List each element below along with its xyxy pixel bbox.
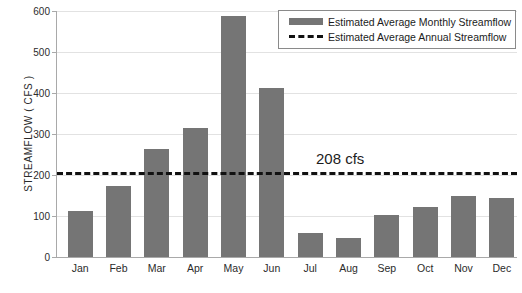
y-tick-label: 400 bbox=[4, 88, 50, 99]
annual-average-value-label: 208 cfs bbox=[316, 150, 364, 167]
bar-aug bbox=[336, 238, 361, 257]
y-tick-label: 200 bbox=[4, 170, 50, 181]
y-tick-label: 500 bbox=[4, 47, 50, 58]
x-tick-label-jun: Jun bbox=[263, 262, 280, 274]
y-tick-label: 300 bbox=[4, 129, 50, 140]
legend-item-annual-label: Estimated Average Annual Streamflow bbox=[328, 31, 506, 43]
bar-group bbox=[183, 11, 208, 257]
x-axis-line bbox=[56, 257, 517, 258]
y-tick-label: 600 bbox=[4, 6, 50, 17]
legend-bar-swatch-icon bbox=[284, 18, 328, 25]
x-tick-label-jul: Jul bbox=[303, 262, 316, 274]
bar-jan bbox=[68, 211, 93, 257]
x-tick-label-feb: Feb bbox=[109, 262, 127, 274]
bar-oct bbox=[413, 207, 438, 257]
x-tick-label-aug: Aug bbox=[339, 262, 358, 274]
x-tick-label-nov: Nov bbox=[454, 262, 473, 274]
bar-group bbox=[106, 11, 131, 257]
x-tick-label-apr: Apr bbox=[187, 262, 203, 274]
bar-group bbox=[68, 11, 93, 257]
bar-jul bbox=[298, 233, 323, 257]
legend-item-annual: Estimated Average Annual Streamflow bbox=[284, 29, 510, 44]
legend-item-monthly: Estimated Average Monthly Streamflow bbox=[284, 14, 510, 29]
bar-group bbox=[144, 11, 169, 257]
bar-sep bbox=[374, 215, 399, 257]
y-tick-label: 100 bbox=[4, 211, 50, 222]
x-tick-label-jan: Jan bbox=[72, 262, 89, 274]
bar-dec bbox=[489, 198, 514, 257]
legend-item-monthly-label: Estimated Average Monthly Streamflow bbox=[328, 16, 511, 28]
x-tick-label-mar: Mar bbox=[148, 262, 166, 274]
bar-nov bbox=[451, 196, 476, 257]
bar-apr bbox=[183, 128, 208, 257]
bar-mar bbox=[144, 149, 169, 257]
x-tick-label-sep: Sep bbox=[377, 262, 396, 274]
bar-group bbox=[221, 11, 246, 257]
x-tick-label-dec: Dec bbox=[492, 262, 511, 274]
x-tick-label-oct: Oct bbox=[417, 262, 433, 274]
y-axis-ticks: 6005004003002001000 bbox=[0, 0, 50, 293]
legend-dashed-line-swatch-icon bbox=[284, 35, 328, 38]
bar-may bbox=[221, 16, 246, 257]
chart-legend: Estimated Average Monthly Streamflow Est… bbox=[278, 10, 516, 49]
streamflow-bar-chart: STREAMFLOW ( CFS ) 6005004003002001000 J… bbox=[0, 0, 522, 293]
y-tick-label: 0 bbox=[4, 252, 50, 263]
x-tick-label-may: May bbox=[224, 262, 244, 274]
bar-feb bbox=[106, 186, 131, 257]
annual-average-reference-line bbox=[57, 172, 517, 175]
